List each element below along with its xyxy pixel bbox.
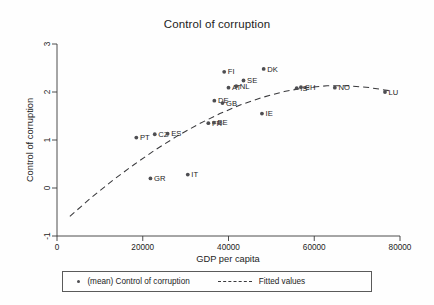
dashed-line-icon — [218, 281, 252, 282]
y-axis: -10123 — [43, 41, 58, 239]
svg-text:80000: 80000 — [389, 243, 412, 252]
svg-text:-1: -1 — [43, 232, 52, 240]
svg-text:DK: DK — [267, 65, 278, 74]
svg-text:NO: NO — [338, 83, 349, 92]
data-point: DK — [262, 65, 278, 74]
svg-text:CH: CH — [305, 83, 316, 92]
svg-text:40000: 40000 — [217, 243, 240, 252]
chart-figure: Control of corruption -10123 02000040000… — [0, 0, 434, 305]
svg-text:BE: BE — [218, 118, 228, 127]
svg-text:LU: LU — [389, 88, 399, 97]
svg-text:IE: IE — [266, 109, 273, 118]
svg-text:FI: FI — [228, 67, 235, 76]
data-point: PT — [134, 133, 150, 142]
x-axis-title: GDP per capita — [196, 254, 260, 264]
svg-text:PT: PT — [140, 133, 150, 142]
svg-text:60000: 60000 — [303, 243, 326, 252]
svg-text:0: 0 — [43, 185, 52, 190]
data-point: NO — [333, 83, 350, 92]
chart-legend: (mean) Control of corruption Fitted valu… — [62, 271, 372, 292]
x-axis: 020000400006000080000 — [55, 236, 412, 252]
circle-marker-icon — [77, 280, 80, 283]
svg-text:GB: GB — [226, 99, 237, 108]
svg-text:0: 0 — [55, 243, 60, 252]
data-point: FI — [222, 67, 234, 76]
svg-text:1: 1 — [43, 137, 52, 142]
data-point: IT — [186, 170, 199, 179]
legend-label-fitted: Fitted values — [259, 277, 305, 286]
svg-text:3: 3 — [43, 41, 52, 46]
data-points-layer: PTGRCZESITFRBEDEGBFIATNLSEIEDKISCHNOLU — [134, 65, 398, 183]
legend-item-mean: (mean) Control of corruption — [77, 277, 190, 286]
svg-text:IT: IT — [191, 170, 198, 179]
data-point: GR — [149, 174, 166, 183]
svg-text:SE: SE — [247, 76, 257, 85]
svg-text:ES: ES — [171, 129, 181, 138]
svg-text:GR: GR — [154, 174, 166, 183]
scatter-plot-canvas: -10123 020000400006000080000 Control of … — [0, 0, 434, 305]
y-axis-title: Control of corruption — [25, 98, 35, 182]
data-point: LU — [383, 88, 398, 97]
svg-text:20000: 20000 — [131, 243, 154, 252]
legend-label-mean: (mean) Control of corruption — [87, 277, 189, 286]
svg-text:2: 2 — [43, 89, 52, 94]
legend-item-fitted: Fitted values — [218, 277, 305, 286]
data-point: IE — [260, 109, 273, 118]
